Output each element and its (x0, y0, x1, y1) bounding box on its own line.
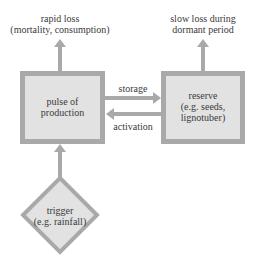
pulse-line2: production (22, 107, 103, 118)
reserve-line3: lignotuber) (163, 112, 243, 123)
rapid-loss-line2: (mortality, consumption) (0, 24, 120, 35)
storage-label: storage (104, 83, 162, 94)
reserve-line2: (e.g. seeds, (163, 101, 243, 112)
activation-arrow (106, 108, 161, 120)
reserve-line1: reserve (163, 90, 243, 101)
trigger-label: trigger (e.g. rainfall) (20, 205, 100, 227)
pulse-line1: pulse of (22, 96, 103, 107)
reserve-label: reserve (e.g. seeds, lignotuber) (163, 90, 243, 123)
trigger-line2: (e.g. rainfall) (20, 216, 100, 227)
rapid-loss-label: rapid loss (mortality, consumption) (0, 13, 120, 35)
trigger-line1: trigger (20, 205, 100, 216)
slow-loss-line1: slow loss during (153, 13, 253, 24)
pulse-label: pulse of production (22, 96, 103, 118)
slow-loss-line2: dormant period (153, 24, 253, 35)
arrow-pulse-to-rapid-loss (54, 39, 66, 73)
arrow-reserve-to-slow-loss (197, 39, 209, 73)
slow-loss-label: slow loss during dormant period (153, 13, 253, 35)
arrow-trigger-to-pulse (54, 144, 66, 178)
activation-label: activation (104, 121, 162, 132)
rapid-loss-line1: rapid loss (0, 13, 120, 24)
